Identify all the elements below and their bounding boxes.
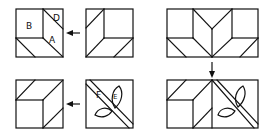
panel-bottom-left [16,80,63,128]
label-d: D [53,13,60,23]
label-b: B [26,21,32,31]
panel-bottom-right-wide [167,80,258,128]
panel-top-right-wide [167,9,258,57]
arrow-down-right [209,62,215,78]
label-f: F [96,90,101,100]
label-e: E [113,93,117,101]
label-a: A [49,35,56,45]
arrow-left-top [66,30,80,36]
quilt-diagram: B D A F E [0,0,273,139]
panel-top-middle [86,9,133,57]
arrow-left-bottom [66,101,80,107]
panel-bottom-middle [86,80,133,128]
